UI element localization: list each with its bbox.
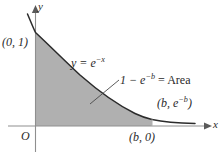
curve-equation-exponent: −x <box>96 55 105 64</box>
area-expression-exponent: −b <box>145 72 155 81</box>
point-b-exponent: −b <box>178 95 188 104</box>
exponential-area-figure: y x O (0, 1) y = e−x 1 − e−b = Area (b, … <box>0 0 223 158</box>
x-axis-label: x <box>213 119 218 130</box>
area-expression-equals-area: = Area <box>155 73 190 87</box>
point-b-close-paren: ) <box>188 96 192 110</box>
curve-equation-base: y = e <box>71 56 96 70</box>
x-axis-arrowhead <box>204 122 212 129</box>
point-label-y-intercept: (0, 1) <box>2 36 28 48</box>
y-axis-label: y <box>38 1 43 12</box>
origin-label: O <box>21 130 30 142</box>
area-expression-base: 1 − e <box>120 73 145 87</box>
point-label-b-exp-b: (b, e−b) <box>157 97 192 109</box>
curve-equation-label: y = e−x <box>71 57 105 69</box>
point-label-b-zero: (b, 0) <box>129 131 155 143</box>
point-b-exp-base: (b, e <box>157 96 178 110</box>
area-annotation-label: 1 − e−b = Area <box>120 74 190 86</box>
